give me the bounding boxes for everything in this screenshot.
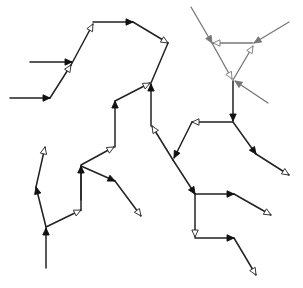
diagram-canvas <box>0 0 303 288</box>
